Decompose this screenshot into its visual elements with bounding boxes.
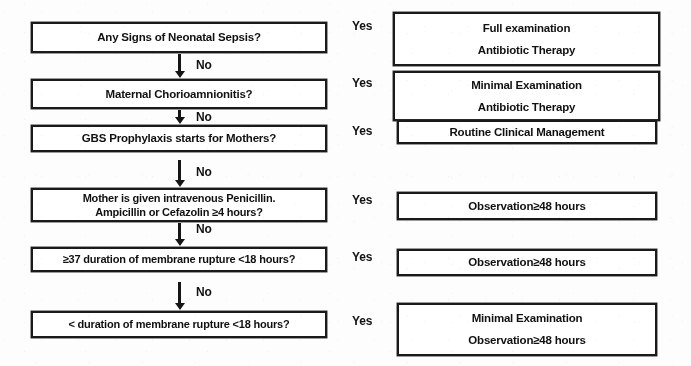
decision-label-line-1: Mother is given intravenous Penicillin. — [33, 192, 325, 204]
arrow-head — [175, 117, 185, 124]
edge-label-yes-sepsis: Yes — [352, 19, 372, 33]
decision-label-line-2: Ampicillin or Cefazolin ≥4 hours? — [33, 206, 325, 218]
edge-label-yes-intravenous: Yes — [352, 193, 372, 207]
edge-label-no-chorioamnionitis: No — [196, 110, 212, 124]
arrow-chorioamnionitis-to-gbs — [173, 110, 186, 124]
arrow-head — [175, 303, 185, 310]
outcome-box-routine-clinical-management[interactable]: Routine Clinical Management — [397, 120, 657, 144]
edge-label-yes-chorioamnionitis: Yes — [352, 76, 372, 90]
arrow-shaft — [178, 223, 181, 240]
flowchart-canvas: Any Signs of Neonatal Sepsis? Maternal C… — [0, 0, 691, 366]
arrow-shaft — [178, 160, 181, 181]
outcome-label-line-2: Antibiotic Therapy — [395, 44, 658, 57]
edge-label-no-membrane37: No — [196, 285, 212, 299]
outcome-label-line-2: Antibiotic Therapy — [395, 101, 658, 114]
arrow-head — [175, 239, 185, 246]
edge-label-no-gbs: No — [196, 165, 212, 179]
arrow-membrane37-to-membranelt — [173, 282, 186, 310]
arrow-sepsis-to-chorioamnionitis — [173, 54, 186, 78]
decision-box-gbs-prophylaxis[interactable]: GBS Prophylaxis starts for Mothers? — [31, 125, 327, 152]
edge-label-yes-membrane37: Yes — [352, 250, 372, 264]
decision-label: GBS Prophylaxis starts for Mothers? — [33, 132, 325, 145]
decision-box-membrane-rupture-37[interactable]: ≥37 duration of membrane rupture <18 hou… — [31, 247, 327, 272]
decision-label: Any Signs of Neonatal Sepsis? — [33, 31, 325, 44]
outcome-label-line-1: Minimal Examination — [395, 79, 658, 92]
arrow-gbs-to-intravenous — [173, 160, 186, 187]
outcome-label: Observation≥48 hours — [399, 200, 655, 213]
decision-box-membrane-rupture-lt[interactable]: < duration of membrane rupture <18 hours… — [31, 311, 327, 338]
edge-label-yes-membranelt: Yes — [352, 314, 372, 328]
outcome-label-line-2: Observation≥48 hours — [399, 334, 655, 347]
outcome-box-minimal-exam-antibiotics[interactable]: Minimal Examination Antibiotic Therapy — [393, 71, 660, 121]
decision-label: ≥37 duration of membrane rupture <18 hou… — [33, 253, 325, 265]
decision-box-neonatal-sepsis[interactable]: Any Signs of Neonatal Sepsis? — [31, 22, 327, 53]
outcome-label-line-1: Minimal Examination — [399, 312, 655, 325]
outcome-box-full-exam-antibiotics[interactable]: Full examination Antibiotic Therapy — [393, 12, 660, 66]
decision-label: < duration of membrane rupture <18 hours… — [33, 318, 325, 330]
edge-label-yes-gbs: Yes — [352, 124, 372, 138]
outcome-label: Routine Clinical Management — [399, 126, 655, 139]
arrow-shaft — [178, 282, 181, 304]
decision-box-intravenous-antibiotics[interactable]: Mother is given intravenous Penicillin. … — [31, 188, 327, 222]
decision-box-chorioamnionitis[interactable]: Maternal Chorioamnionitis? — [31, 79, 327, 109]
outcome-label-line-1: Full examination — [395, 22, 658, 35]
arrow-shaft — [178, 54, 181, 72]
decision-label: Maternal Chorioamnionitis? — [33, 88, 325, 101]
arrow-head — [175, 71, 185, 78]
outcome-label: Observation≥48 hours — [399, 256, 655, 269]
arrow-head — [175, 180, 185, 187]
outcome-box-observation-48-b[interactable]: Observation≥48 hours — [397, 249, 657, 276]
edge-label-no-intravenous: No — [196, 222, 212, 236]
arrow-intravenous-to-membrane37 — [173, 223, 186, 246]
outcome-box-minimal-exam-observation[interactable]: Minimal Examination Observation≥48 hours — [397, 303, 657, 356]
edge-label-no-sepsis: No — [196, 58, 212, 72]
outcome-box-observation-48-a[interactable]: Observation≥48 hours — [397, 192, 657, 220]
